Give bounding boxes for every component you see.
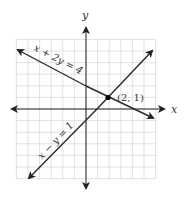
- coordinate-graph: x y x + 2y = 4 x − y = 1 (2, 1): [0, 0, 187, 202]
- x-axis-label: x: [171, 103, 178, 116]
- intersection-point: [105, 95, 110, 100]
- intersection-label: (2, 1): [117, 92, 144, 103]
- y-axis-label: y: [81, 9, 89, 22]
